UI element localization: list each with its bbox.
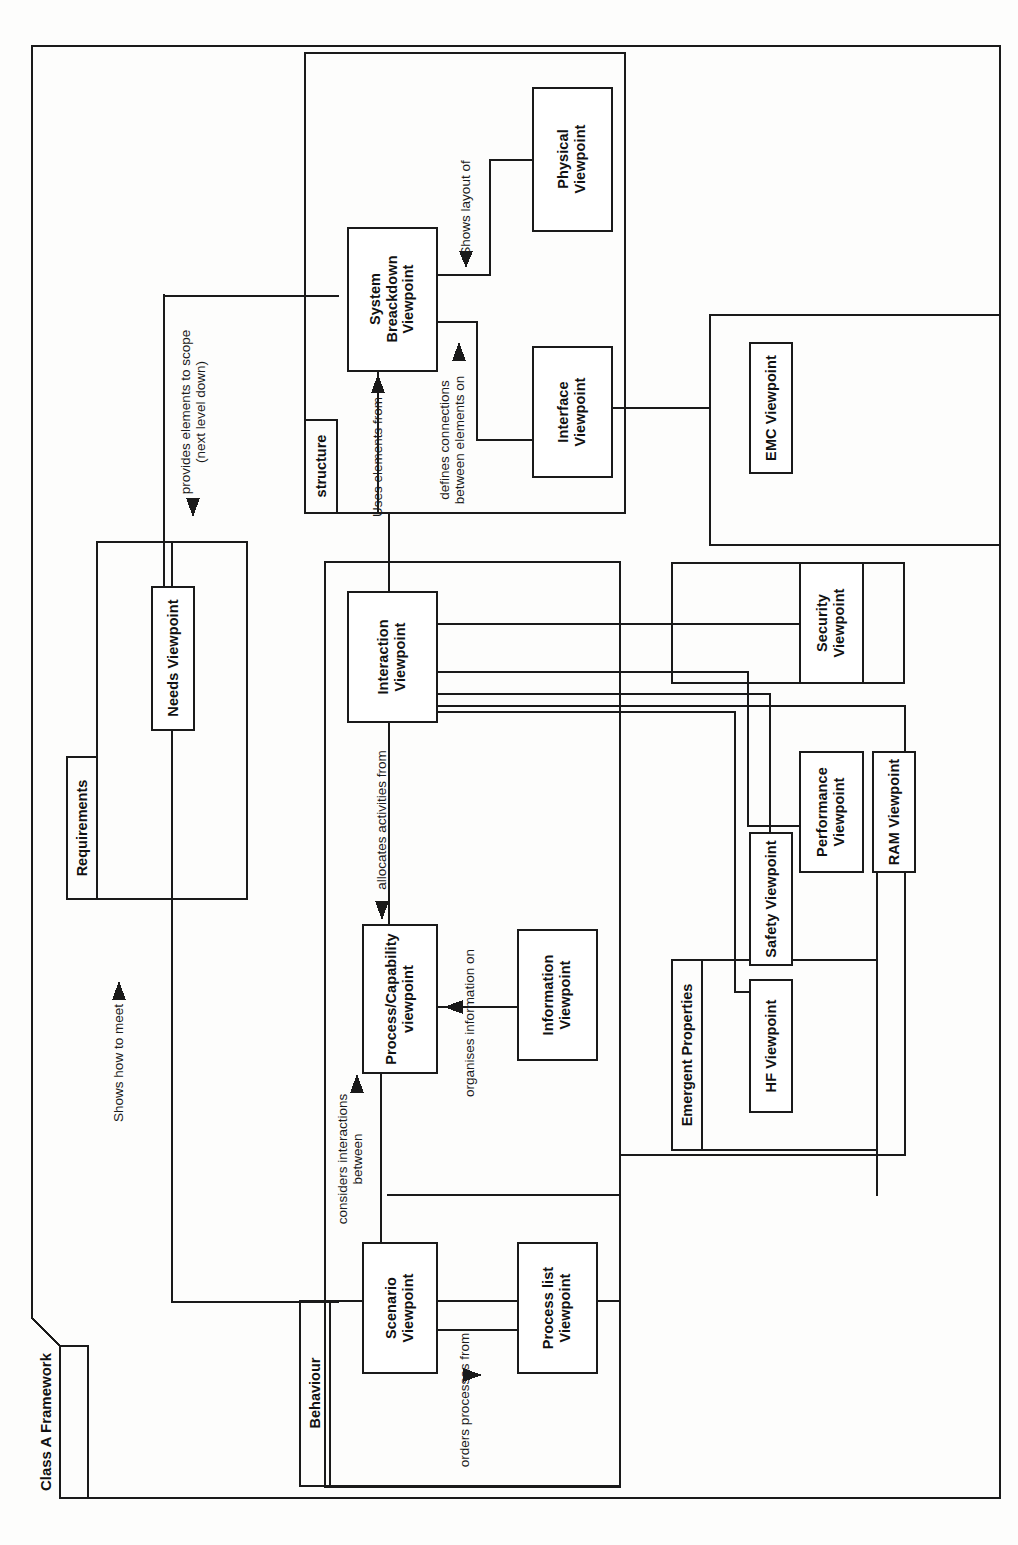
edge-interaction-performance xyxy=(437,672,800,826)
edge-label-orders-processes-from: orders processes from xyxy=(457,1333,472,1467)
node-label-performance-viewpoint: Performance Viewpoint xyxy=(814,767,847,857)
node-label-emc-viewpoint: EMC Viewpoint xyxy=(763,355,780,461)
group-label-emergent-properties: Emergent Properties xyxy=(679,984,696,1127)
node-label-hf-viewpoint: HF Viewpoint xyxy=(763,1000,780,1093)
edge-label-allocates-activities-from: allocates activities from xyxy=(374,750,389,890)
node-label-safety-viewpoint: Safety Viewpoint xyxy=(763,840,780,957)
edge-label-provides-elements-to-scope: provides elements to scope (next level d… xyxy=(178,330,209,494)
edge-sysbd-physical xyxy=(437,160,533,275)
arrowhead-provides-elements xyxy=(186,498,200,517)
group-label-structure: structure xyxy=(313,435,330,498)
node-label-interface-viewpoint: Interface Viewpoint xyxy=(555,377,588,446)
group-label-requirements: Requirements xyxy=(74,780,91,877)
node-label-physical-viewpoint: Physical Viewpoint xyxy=(555,124,588,193)
arrowhead-allocates-activities xyxy=(375,901,389,920)
node-label-process-capability-viewpoint: Process/Capability viewpoint xyxy=(383,933,416,1065)
diagram-canvas xyxy=(0,0,1018,1545)
edge-interaction-safety xyxy=(437,694,790,838)
node-label-system-breackdown-viewpoint: System Breackdown Viewpoint xyxy=(367,255,417,342)
arrowhead-shows-how-to-meet xyxy=(112,981,126,1000)
edge-label-considers-interactions-between: considers interactions between xyxy=(335,1094,366,1225)
frame-title: Class A Framework xyxy=(37,1353,54,1491)
node-label-needs-viewpoint: Needs Viewpoint xyxy=(165,599,182,716)
edge-label-organises-information-on: organises information on xyxy=(462,949,477,1097)
group-label-behaviour: Behaviour xyxy=(307,1358,324,1429)
edge-label-shows-how-to-meet: Shows how to meet xyxy=(111,1004,126,1122)
node-label-ram-viewpoint: RAM Viewpoint xyxy=(886,759,903,866)
arrowhead-uses-elements-from xyxy=(371,374,385,393)
node-label-interaction-viewpoint: Interaction Viewpoint xyxy=(375,619,408,694)
node-label-security-viewpoint: Security Viewpoint xyxy=(814,588,847,657)
node-label-process-list-viewpoint: Process list Viewpoint xyxy=(540,1267,573,1350)
diagram-page: Class A Framework structure Requirements… xyxy=(0,0,1018,1545)
edge-label-shows-layout-of: Shows layout of xyxy=(458,160,473,255)
edge-label-defines-connections: defines connections between elements on xyxy=(437,376,468,504)
node-label-information-viewpoint: Information Viewpoint xyxy=(540,955,573,1036)
arrowhead-organises-information xyxy=(444,1000,463,1014)
arrowhead-considers-interactions xyxy=(350,1074,364,1093)
edge-needs-sysbd-h xyxy=(164,295,338,296)
arrowhead-defines-connections xyxy=(452,342,466,361)
edge-label-uses-elements-from: Uses elements from xyxy=(370,397,385,517)
node-label-scenario-viewpoint: Scenario Viewpoint xyxy=(383,1273,416,1342)
